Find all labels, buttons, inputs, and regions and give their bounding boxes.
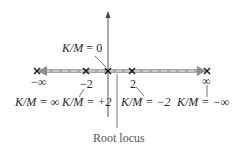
km-label-neg-two: K/M = +2 [62,96,112,108]
value-label-pos-two: 2 [130,78,136,90]
km-zero-label: K/M = 0 [62,42,102,54]
root-locus-caption: Root locus [93,132,145,144]
km-label-pos-two: K/M = −2 [121,96,171,108]
vertical-axis-arrow-icon [106,11,111,18]
value-label-pos-inf: ∞ [202,75,211,87]
km-label-neg-inf: K/M = ∞ [15,96,59,108]
value-label-neg-inf: −∞ [31,76,46,88]
value-label-neg-two: −2 [80,78,93,90]
leader-km0 [95,56,106,67]
km-label-pos-inf: K/M = −∞ [177,96,229,108]
